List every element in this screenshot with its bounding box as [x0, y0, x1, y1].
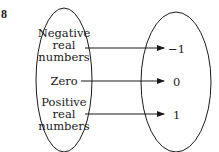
range-label-zero: 0: [173, 75, 180, 89]
range-label-one: 1: [173, 108, 180, 122]
problem-number: 8: [1, 7, 7, 21]
domain-label-negative-line3: numbers: [38, 50, 89, 64]
mapping-diagram: 8 Negative real numbers Zero Positive re…: [0, 0, 219, 152]
domain-label-zero: Zero: [50, 74, 77, 88]
domain-label-positive-line3: numbers: [38, 119, 89, 133]
range-label-minus-one: −1: [168, 42, 185, 56]
